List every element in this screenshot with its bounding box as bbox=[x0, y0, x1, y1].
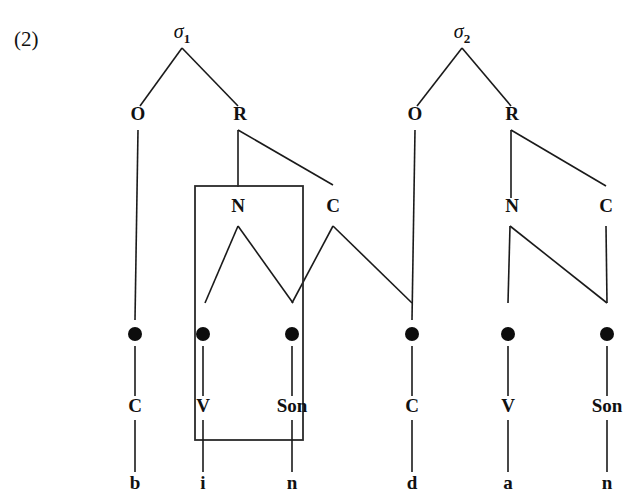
node-onset-1: O bbox=[131, 103, 146, 124]
skeletal-slot-x-slot-3 bbox=[285, 327, 299, 341]
tier-label-x-slot-4: C bbox=[405, 395, 419, 416]
segment-x-slot-6: n bbox=[602, 472, 613, 493]
edge-s2-to-R bbox=[462, 48, 511, 106]
segment-x-slot-5: a bbox=[503, 472, 513, 493]
skeletal-slot-x-slot-4 bbox=[405, 327, 419, 341]
tree-edges-layer bbox=[135, 48, 607, 320]
tier-label-x-slot-2: V bbox=[196, 395, 210, 416]
node-labels-layer: (2)σ1ORNCσ2ORNCCbViSonnCdVaSonn bbox=[14, 20, 623, 493]
segment-x-slot-3: n bbox=[287, 472, 298, 493]
sigma-1-label: σ1 bbox=[174, 20, 190, 46]
edge-O1-to-x1 bbox=[135, 130, 138, 320]
node-rhyme-1: R bbox=[233, 103, 247, 124]
tier-label-x-slot-5: V bbox=[501, 395, 515, 416]
skeletal-slot-x-slot-2 bbox=[196, 327, 210, 341]
edge-s1-to-O bbox=[140, 48, 182, 106]
edge-R1-to-C bbox=[238, 130, 333, 185]
diagram-page: (2)σ1ORNCσ2ORNCCbViSonnCdVaSonn bbox=[0, 0, 639, 499]
edge-O2-to-x4 bbox=[412, 130, 415, 320]
node-coda-1: C bbox=[326, 195, 340, 216]
segment-x-slot-4: d bbox=[407, 472, 418, 493]
node-nucleus-1: N bbox=[231, 195, 245, 216]
skeletal-slot-x-slot-1 bbox=[128, 327, 142, 341]
tier-label-x-slot-3: Son bbox=[277, 395, 308, 416]
syllable-structure-diagram: (2)σ1ORNCσ2ORNCCbViSonnCdVaSonn bbox=[0, 0, 639, 499]
node-coda-2: C bbox=[599, 195, 613, 216]
node-rhyme-2: R bbox=[505, 103, 519, 124]
tier-label-x-slot-6: Son bbox=[592, 395, 623, 416]
example-number: (2) bbox=[14, 27, 39, 51]
segment-x-slot-1: b bbox=[130, 472, 141, 493]
sigma-2-label: σ2 bbox=[454, 20, 470, 46]
edge-N1-to-x3 bbox=[238, 226, 293, 303]
edge-s2-to-O bbox=[417, 48, 462, 106]
skeletal-slot-x-slot-6 bbox=[600, 327, 614, 341]
skeletal-slots-layer bbox=[128, 327, 614, 341]
tier-label-x-slot-1: C bbox=[128, 395, 142, 416]
node-onset-2: O bbox=[408, 103, 423, 124]
edge-C1-to-x3 bbox=[292, 226, 333, 303]
edge-N2-to-x6 bbox=[510, 226, 607, 303]
edge-N2-to-x5 bbox=[508, 226, 510, 303]
edge-s1-to-R bbox=[182, 48, 238, 106]
segment-x-slot-2: i bbox=[200, 472, 205, 493]
node-nucleus-2: N bbox=[505, 195, 519, 216]
edge-N1-to-x2 bbox=[205, 226, 238, 303]
edge-C1-to-x4 bbox=[333, 226, 412, 303]
edge-C2-to-x6 bbox=[606, 226, 607, 303]
edge-R2-to-C bbox=[511, 130, 606, 186]
skeletal-slot-x-slot-5 bbox=[501, 327, 515, 341]
